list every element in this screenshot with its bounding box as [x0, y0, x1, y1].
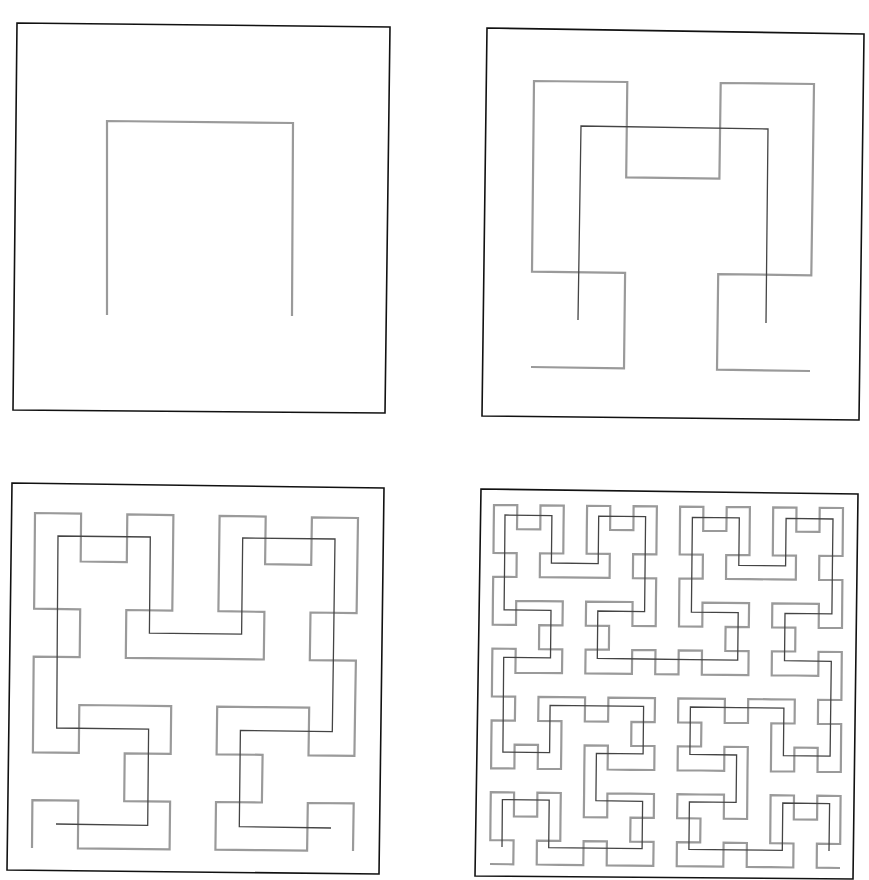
curve-group — [32, 513, 358, 851]
curve-group — [490, 505, 843, 868]
hilbert-curve-order-4-current — [490, 505, 843, 868]
panel-frame — [13, 23, 390, 413]
panel-order-3 — [7, 483, 384, 874]
panel-frame — [7, 483, 384, 874]
hilbert-curve-order-1-current — [107, 121, 293, 316]
panel-frame — [482, 28, 864, 420]
hilbert-curve-order-2-current — [531, 81, 814, 371]
panel-order-1 — [13, 23, 390, 413]
hilbert-figure — [0, 0, 869, 880]
hilbert-curve-order-1-previous — [578, 126, 768, 323]
panel-order-4 — [475, 489, 858, 879]
hilbert-curve-order-2-previous — [56, 536, 335, 828]
hilbert-curve-order-3-previous — [502, 515, 833, 851]
curve-group — [107, 121, 293, 316]
curve-group — [531, 81, 814, 371]
panel-order-2 — [482, 28, 864, 420]
hilbert-curve-order-3-current — [32, 513, 358, 851]
